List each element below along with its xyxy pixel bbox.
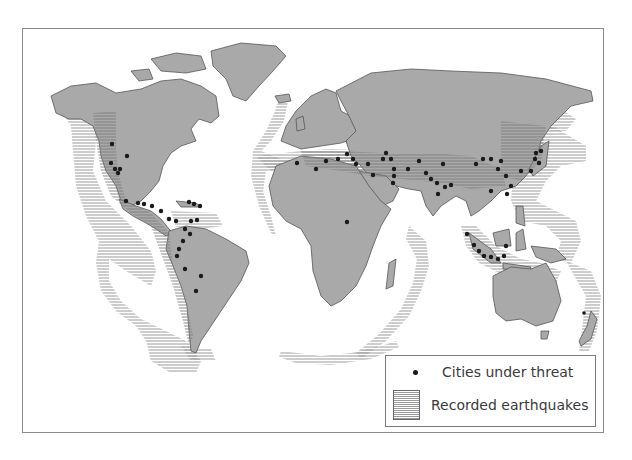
greenland	[211, 43, 286, 101]
legend-item-cities: Cities under threat	[386, 362, 573, 382]
legend-item-earthquakes: Recorded earthquakes	[386, 388, 589, 422]
australia	[493, 263, 561, 326]
madagascar	[386, 259, 396, 289]
legend-label-cities: Cities under threat	[442, 364, 573, 380]
legend-label-earthquakes: Recorded earthquakes	[431, 397, 589, 413]
legend: Cities under threat Recorded earthquakes	[385, 355, 596, 427]
city-dot-icon	[413, 370, 418, 375]
hatch-swatch-icon	[393, 390, 420, 420]
